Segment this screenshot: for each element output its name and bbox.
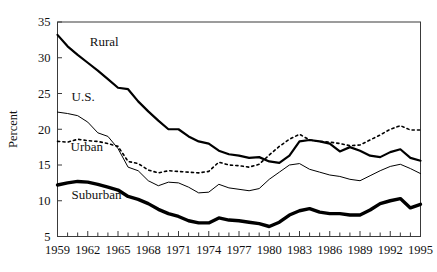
y-tick-label: 15 (38, 158, 51, 172)
series-label-suburban: Suburban (72, 187, 122, 202)
y-tick-label: 25 (38, 87, 51, 101)
y-axis-title: Percent (6, 110, 20, 148)
x-tick-label: 1989 (348, 243, 373, 257)
x-tick-label: 1980 (257, 243, 282, 257)
series-label-urban: Urban (71, 139, 104, 154)
x-tick-label: 1995 (408, 243, 433, 257)
y-tick-label: 10 (38, 194, 51, 208)
y-axis-tick-labels: 5101520253035 (38, 15, 51, 244)
x-tick-label: 1992 (378, 243, 403, 257)
x-tick-label: 1959 (45, 243, 70, 257)
x-tick-label: 1977 (227, 243, 252, 257)
y-axis-title-text: Percent (6, 110, 20, 148)
x-tick-label: 1974 (196, 243, 222, 257)
y-tick-label: 30 (38, 51, 51, 65)
x-tick-label: 1962 (75, 243, 100, 257)
y-tick-label: 20 (38, 123, 51, 137)
x-tick-label: 1965 (106, 243, 131, 257)
x-tick-label: 1968 (136, 243, 161, 257)
chart-figure: 5101520253035 19591962196519681971197419… (0, 0, 437, 272)
x-tick-label: 1971 (166, 243, 191, 257)
x-tick-label: 1986 (317, 243, 342, 257)
poverty-rate-line-chart: 5101520253035 19591962196519681971197419… (0, 0, 437, 272)
plot-area-frame (58, 22, 421, 237)
y-tick-label: 5 (44, 230, 50, 244)
series-label-us: U.S. (72, 89, 95, 104)
x-tick-label: 1983 (287, 243, 312, 257)
x-axis-tick-labels: 1959196219651968197119741977198019831986… (45, 243, 433, 257)
series-label-rural: Rural (90, 34, 119, 49)
y-tick-label: 35 (38, 15, 51, 29)
